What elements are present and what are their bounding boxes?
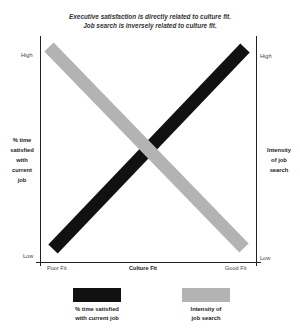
right-axis-high-label: High xyxy=(260,53,272,60)
legend-label: Intensity of job search xyxy=(170,305,242,322)
left-y-axis-title-line: job xyxy=(4,175,40,185)
right-axis-low-label: Low xyxy=(260,255,270,262)
legend-label-line: job search xyxy=(170,314,242,323)
left-y-axis-title-line: with xyxy=(4,155,40,165)
right-y-axis-title: Intensity of job search xyxy=(259,145,299,175)
right-y-axis-title-line: Intensity xyxy=(259,145,299,155)
legend-swatch-black xyxy=(73,288,121,302)
left-axis-low-label: Low xyxy=(23,253,33,260)
right-y-axis-title-line: of job xyxy=(259,155,299,165)
left-y-axis-title-line: current xyxy=(4,165,40,175)
legend-label-line: Intensity of xyxy=(170,305,242,314)
legend-label-line: with current job xyxy=(58,314,136,323)
left-y-axis-title: % time satisfied with current job xyxy=(4,135,40,185)
x-axis-good-fit-label: Good Fit xyxy=(225,265,246,272)
chart-plot-area xyxy=(0,0,300,336)
left-axis-high-label: High xyxy=(21,52,33,59)
left-y-axis-title-line: % time xyxy=(4,135,40,145)
legend-item-job-search: Intensity of job search xyxy=(170,288,242,322)
legend-label-line: % time satisfied xyxy=(58,305,136,314)
right-y-axis-title-line: search xyxy=(259,165,299,175)
x-axis-poor-fit-label: Poor Fit xyxy=(47,265,67,272)
x-axis-title: Culture Fit xyxy=(129,265,157,271)
left-y-axis-title-line: satisfied xyxy=(4,145,40,155)
legend-item-satisfaction: % time satisfied with current job xyxy=(58,288,136,322)
legend-label: % time satisfied with current job xyxy=(58,305,136,322)
legend-swatch-gray xyxy=(182,288,230,302)
